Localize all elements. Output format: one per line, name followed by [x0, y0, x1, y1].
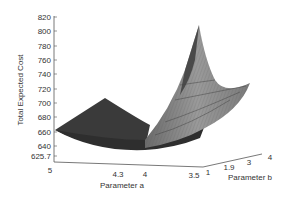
svg-text:780: 780	[38, 42, 52, 51]
svg-text:760: 760	[38, 56, 52, 65]
x-tick-labels: 5 4.3 4 3.5	[48, 166, 200, 180]
svg-text:5: 5	[48, 166, 53, 175]
x-axis	[54, 162, 203, 167]
x-axis-label: Parameter a	[100, 181, 145, 190]
svg-text:640: 640	[38, 142, 52, 151]
svg-text:3: 3	[247, 158, 252, 167]
svg-text:800: 800	[38, 27, 52, 36]
y-axis-label: Parameter b	[228, 173, 273, 182]
surface-chart: 820 800 780 760 740 720 700 680 660 640 …	[0, 0, 286, 199]
svg-text:4.3: 4.3	[112, 170, 124, 179]
svg-text:3.5: 3.5	[188, 171, 200, 180]
svg-text:700: 700	[38, 99, 52, 108]
svg-text:4: 4	[143, 170, 148, 179]
svg-text:680: 680	[38, 113, 52, 122]
surface	[55, 25, 250, 150]
z-tick-labels: 820 800 780 760 740 720 700 680 660 640 …	[31, 13, 52, 161]
svg-text:660: 660	[38, 128, 52, 137]
svg-text:720: 720	[38, 85, 52, 94]
z-ticks	[54, 17, 57, 156]
svg-text:625.7: 625.7	[31, 152, 52, 161]
svg-text:820: 820	[38, 13, 52, 22]
svg-text:4: 4	[268, 153, 273, 162]
svg-text:1: 1	[206, 168, 211, 177]
svg-text:740: 740	[38, 70, 52, 79]
z-axis-label: Total Expected Cost	[16, 54, 25, 126]
svg-text:1.9: 1.9	[223, 163, 235, 172]
